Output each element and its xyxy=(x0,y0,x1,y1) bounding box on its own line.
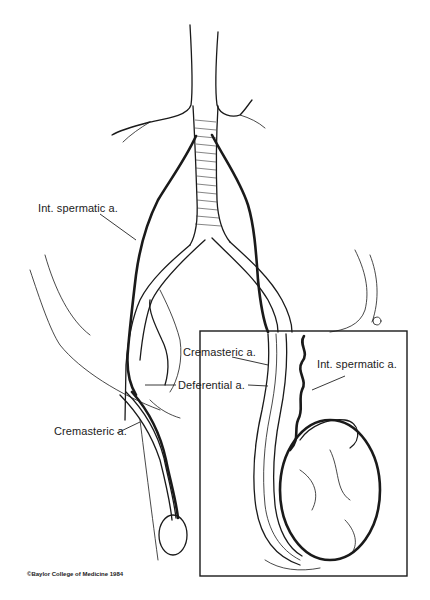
anatomical-illustration: Int. spermatic a. Deferential a. Cremast… xyxy=(0,0,430,600)
int-spermatic-artery-right xyxy=(212,135,268,332)
label-int-spermatic-main: Int. spermatic a. xyxy=(38,202,118,214)
aorta xyxy=(112,25,265,245)
right-groin-contour xyxy=(330,250,381,332)
label-cremasteric-main: Cremasteric a. xyxy=(54,425,127,437)
copyright-credit: ©Baylor College of Medicine 1984 xyxy=(27,571,123,577)
leader-deferential-right xyxy=(248,385,268,386)
artery-drawing xyxy=(0,0,430,600)
leader-int-spermatic-inset xyxy=(312,376,345,390)
leader-cremasteric-inset xyxy=(232,357,268,365)
left-spermatic-cord xyxy=(30,255,187,560)
leader-int-spermatic-main xyxy=(100,214,136,240)
label-deferential: Deferential a. xyxy=(178,379,245,391)
label-int-spermatic-inset: Int. spermatic a. xyxy=(317,358,397,370)
label-cremasteric-inset: Cremasteric a. xyxy=(183,346,256,358)
